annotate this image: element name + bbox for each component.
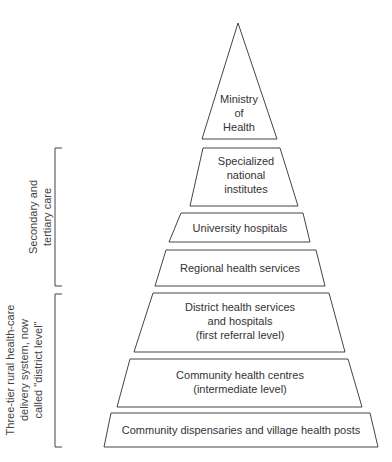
label-line: of bbox=[205, 106, 273, 120]
ministry-label: Ministry of Health bbox=[205, 92, 273, 134]
label-line: Community health centres bbox=[125, 368, 355, 382]
label-line: (first referral level) bbox=[140, 328, 340, 342]
district-label: District health services and hospitals (… bbox=[140, 300, 340, 342]
label-line: national bbox=[200, 168, 292, 182]
label-line: University hospitals bbox=[170, 221, 310, 235]
label-line: called "district level" bbox=[31, 290, 45, 450]
label-line: Community dispensaries and village healt… bbox=[106, 423, 376, 437]
label-line: institutes bbox=[200, 182, 292, 196]
label-line: Regional health services bbox=[155, 261, 325, 275]
bracket-secondary-tertiary bbox=[55, 148, 62, 286]
label-line: delivery system, now bbox=[17, 290, 31, 450]
district-level-label: Three-tier rural health-care delivery sy… bbox=[3, 290, 45, 450]
university-label: University hospitals bbox=[170, 221, 310, 235]
label-line: District health services bbox=[140, 300, 340, 314]
label-line: Specialized bbox=[200, 154, 292, 168]
bracket-district-level bbox=[55, 294, 62, 447]
specialized-label: Specialized national institutes bbox=[200, 154, 292, 196]
label-line: tertiary care bbox=[40, 157, 54, 277]
label-line: (intermediate level) bbox=[125, 382, 355, 396]
label-line: Health bbox=[205, 120, 273, 134]
community-centres-label: Community health centres (intermediate l… bbox=[125, 368, 355, 396]
label-line: Secondary and bbox=[26, 157, 40, 277]
dispensaries-label: Community dispensaries and village healt… bbox=[106, 423, 376, 437]
secondary-tertiary-label: Secondary and tertiary care bbox=[26, 157, 54, 277]
label-line: Three-tier rural health-care bbox=[3, 290, 17, 450]
regional-label: Regional health services bbox=[155, 261, 325, 275]
label-line: Ministry bbox=[205, 92, 273, 106]
label-line: and hospitals bbox=[140, 314, 340, 328]
